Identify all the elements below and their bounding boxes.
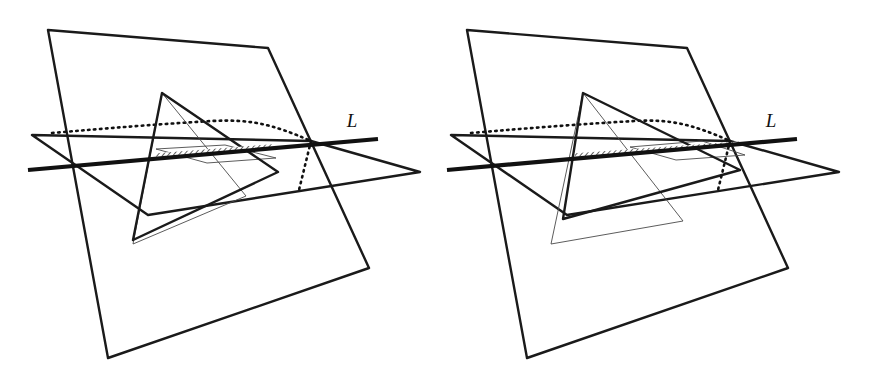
line-label-L: L (765, 110, 777, 131)
line-label-L: L (346, 110, 358, 131)
horizontal-plane (451, 135, 839, 215)
right-figure: L (447, 30, 839, 358)
vertical-plane (467, 30, 788, 358)
vertical-plane (48, 30, 369, 358)
left-figure: L (28, 30, 420, 358)
geometry-diagram: L L (0, 0, 871, 378)
dashed-drop-line (299, 141, 311, 190)
horizontal-plane (32, 135, 420, 215)
bold-triangle (133, 93, 278, 240)
figure-root: L L (0, 0, 871, 378)
thin-triangle (133, 93, 246, 244)
